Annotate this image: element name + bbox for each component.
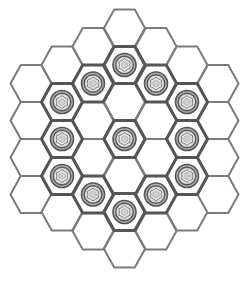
game-piece[interactable] <box>176 91 199 114</box>
piece-core-icon <box>90 80 96 87</box>
piece-core-icon <box>59 98 65 105</box>
piece-core-icon <box>153 191 159 198</box>
piece-core-icon <box>59 135 65 142</box>
piece-core-icon <box>153 80 159 87</box>
game-piece[interactable] <box>176 128 199 151</box>
piece-core-icon <box>121 208 127 215</box>
game-piece[interactable] <box>145 72 168 95</box>
game-piece[interactable] <box>113 201 136 224</box>
piece-core-icon <box>59 172 65 179</box>
game-piece[interactable] <box>51 165 74 188</box>
piece-core-icon <box>184 172 190 179</box>
game-piece[interactable] <box>113 54 136 77</box>
piece-core-icon <box>184 98 190 105</box>
piece-core-icon <box>90 191 96 198</box>
piece-core-icon <box>184 135 190 142</box>
game-piece[interactable] <box>113 128 136 151</box>
game-piece[interactable] <box>51 128 74 151</box>
game-piece[interactable] <box>82 72 105 95</box>
game-piece[interactable] <box>51 91 74 114</box>
hex-game-board <box>0 0 248 281</box>
game-piece[interactable] <box>176 165 199 188</box>
piece-core-icon <box>121 61 127 68</box>
game-piece[interactable] <box>145 183 168 206</box>
piece-core-icon <box>121 135 127 142</box>
game-piece[interactable] <box>82 183 105 206</box>
